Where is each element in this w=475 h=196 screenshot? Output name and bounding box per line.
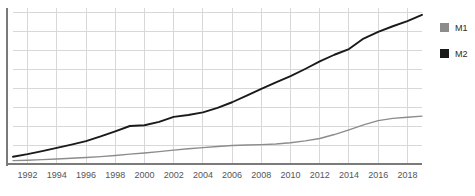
- x-tick-label: 2004: [193, 170, 213, 180]
- x-tick-label: 2000: [134, 170, 154, 180]
- x-tick-label: 2006: [222, 170, 242, 180]
- plot-background: [0, 0, 475, 196]
- x-tick-label: 2010: [281, 170, 301, 180]
- line-chart: 1992199419961998200020022004200620082010…: [0, 0, 475, 196]
- x-tick-label: 1996: [76, 170, 96, 180]
- x-tick-label: 2016: [368, 170, 388, 180]
- legend-swatch-m1: [440, 23, 449, 32]
- x-tick-label: 2018: [397, 170, 417, 180]
- x-tick-label: 2012: [310, 170, 330, 180]
- legend-label-m1: M1: [455, 23, 468, 33]
- x-tick-label: 2014: [339, 170, 359, 180]
- chart-canvas: 1992199419961998200020022004200620082010…: [0, 0, 475, 196]
- x-tick-label: 1992: [18, 170, 38, 180]
- legend-label-m2: M2: [455, 49, 468, 59]
- x-tick-label: 2008: [251, 170, 271, 180]
- x-tick-label: 1998: [105, 170, 125, 180]
- x-tick-label: 2002: [164, 170, 184, 180]
- x-tick-label: 1994: [47, 170, 67, 180]
- legend-swatch-m2: [440, 49, 449, 58]
